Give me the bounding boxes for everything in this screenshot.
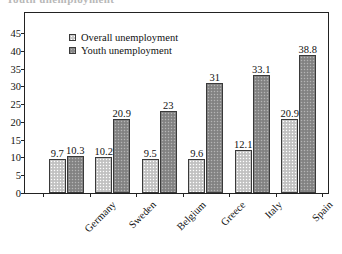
x-axis-tick <box>229 193 230 197</box>
y-axis-label: 30 <box>11 81 22 92</box>
bar-overall[interactable]: 9.5 <box>142 159 159 193</box>
bar-youth[interactable]: 38.8 <box>299 55 316 193</box>
bar-value-label: 23 <box>163 100 174 111</box>
bar-value-label: 9.7 <box>51 148 64 159</box>
x-axis-category-label: Italy <box>262 199 283 220</box>
bar-value-label: 10.3 <box>66 145 84 156</box>
bar-overall[interactable]: 12.1 <box>235 150 252 193</box>
legend-swatch-youth-icon <box>69 47 76 54</box>
legend-label-overall: Overall unemployment <box>81 32 178 43</box>
y-axis-tick <box>21 122 25 123</box>
legend-swatch-overall-icon <box>69 34 76 41</box>
y-axis-tick <box>21 86 25 87</box>
bar-value-label: 10.2 <box>95 146 113 157</box>
bar-value-label: 20.9 <box>113 108 131 119</box>
y-axis-tick <box>21 104 25 105</box>
y-axis-label: 25 <box>11 99 22 110</box>
bar-overall[interactable]: 9.7 <box>49 159 66 193</box>
x-axis-tick <box>276 193 277 197</box>
legend-label-youth: Youth unemployment <box>81 45 172 56</box>
y-axis-label: 35 <box>11 63 22 74</box>
bar-youth[interactable]: 23 <box>160 111 177 193</box>
y-axis-tick <box>21 51 25 52</box>
bar-overall[interactable]: 20.9 <box>281 119 298 193</box>
bar-value-label: 38.8 <box>299 44 317 55</box>
bar-overall[interactable]: 9.6 <box>188 159 205 193</box>
x-axis-tick <box>43 193 44 197</box>
bar-youth[interactable]: 20.9 <box>113 119 130 193</box>
y-axis-tick <box>21 140 25 141</box>
y-axis-label: 10 <box>11 152 22 163</box>
legend-item-overall: Overall unemployment <box>69 31 178 44</box>
y-axis-label: 20 <box>11 116 22 127</box>
x-axis-category-label: Germany <box>82 199 117 234</box>
bar-value-label: 9.5 <box>144 148 157 159</box>
y-axis-label: 15 <box>11 134 22 145</box>
bar-value-label: 31 <box>210 72 221 83</box>
y-axis-label: 45 <box>11 28 22 39</box>
bar-group: 12.133.1 <box>229 13 276 193</box>
bar-youth[interactable]: 31 <box>206 83 223 193</box>
x-axis-category-label: Sweden <box>127 199 158 230</box>
y-axis-label: 40 <box>11 45 22 56</box>
x-axis-tick <box>322 193 323 197</box>
legend-item-youth: Youth unemployment <box>69 44 178 57</box>
bar-value-label: 12.1 <box>234 139 252 150</box>
y-axis-tick <box>21 69 25 70</box>
chart-frame: 0510152025303540459.710.310.220.99.5239.… <box>24 12 329 194</box>
chart-title-text: Youth unemployment <box>6 0 114 5</box>
chart-title-clipped: Youth unemployment <box>6 0 206 8</box>
x-axis-category-label: Spain <box>310 199 335 224</box>
bar-overall[interactable]: 10.2 <box>95 157 112 193</box>
chart-legend: Overall unemployment Youth unemployment <box>69 31 178 57</box>
x-axis-tick <box>136 193 137 197</box>
bar-value-label: 20.9 <box>281 108 299 119</box>
bar-group: 20.938.8 <box>276 13 323 193</box>
bar-youth[interactable]: 10.3 <box>67 156 84 193</box>
y-axis-tick <box>21 175 25 176</box>
bar-value-label: 33.1 <box>252 64 270 75</box>
bar-group: 9.631 <box>183 13 230 193</box>
y-axis-tick <box>21 157 25 158</box>
bar-value-label: 9.6 <box>190 148 203 159</box>
y-axis-tick <box>21 33 25 34</box>
x-axis-category-label: Belgium <box>174 199 207 232</box>
bar-youth[interactable]: 33.1 <box>253 75 270 193</box>
x-axis-category-label: Greece <box>219 199 248 228</box>
x-axis-tick <box>183 193 184 197</box>
x-axis-tick <box>90 193 91 197</box>
y-axis-tick <box>21 193 25 194</box>
